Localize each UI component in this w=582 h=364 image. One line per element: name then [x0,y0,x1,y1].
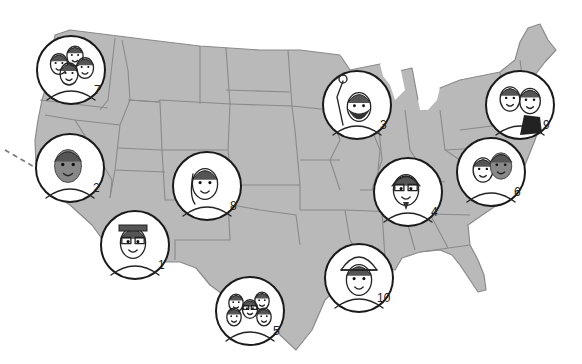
portrait-marker-9: 9 [486,71,554,139]
portrait-marker-10: 10 [325,244,393,312]
portrait-marker-4: 4 [374,158,442,226]
lake-superior [340,50,380,64]
portrait-marker-5: 5 [216,277,284,345]
portrait-marker-6: 6 [457,138,525,206]
portrait-number-label: 1 [158,258,165,272]
portrait-marker-1: 1 [101,211,169,279]
portrait-marker-8: 8 [173,152,241,220]
portrait-marker-3: 3 [323,71,391,139]
portrait-number-label: 9 [543,118,550,132]
portrait-marker-2: 2 [36,134,104,202]
portrait-number-label: 5 [273,324,280,338]
portrait-number-label: 10 [377,291,391,305]
portrait-number-label: 6 [514,185,521,199]
dashed-pointer-line [5,150,36,168]
portrait-number-label: 2 [93,181,100,195]
portrait-marker-7: 7 [37,36,105,104]
portrait-number-label: 8 [230,199,237,213]
portrait-number-label: 3 [380,118,387,132]
portrait-number-label: 7 [94,83,101,97]
us-map-illustration: 12345678910 [0,0,582,364]
map-svg: 12345678910 [0,0,582,364]
portrait-number-label: 4 [431,205,438,219]
